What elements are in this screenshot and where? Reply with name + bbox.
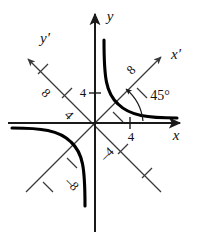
y-prime-tick-label-8: 8 (39, 85, 54, 100)
x-prime-tick-label-8: 8 (123, 62, 138, 77)
x-prime-axis-label: x′ (170, 46, 182, 62)
y-prime-tick-neg4 (118, 144, 128, 154)
y-prime-tick-label-4: 4 (62, 107, 78, 123)
x-prime-tick-4 (113, 112, 123, 122)
primed-axes-group (26, 57, 161, 192)
hyperbola-rotated-axes-figure: x y x′ y′ 45° 4 4 8 –4 8 4 –8 (0, 0, 198, 235)
x-prime-tick-neg8 (43, 182, 53, 192)
x-prime-tick-neg4 (67, 158, 77, 168)
y-prime-tick-8 (38, 64, 48, 74)
y-prime-tick-4 (62, 88, 72, 98)
angle-label-45: 45° (150, 88, 170, 103)
y-axis-tick-label-4: 4 (80, 85, 87, 100)
hyperbola-branch-third-quadrant (12, 128, 85, 206)
y-prime-tick-label-neg8: –8 (62, 173, 83, 194)
y-prime-axis-label: y′ (38, 30, 51, 46)
y-prime-tick-neg8 (142, 168, 152, 178)
x-axis-tick-label-4: 4 (128, 129, 135, 144)
main-axes-group (8, 14, 180, 232)
x-axis-label: x (172, 127, 180, 143)
y-axis-label: y (105, 8, 114, 24)
x-prime-tick-label-neg4: –4 (96, 144, 117, 165)
hyperbola-branch-first-quadrant (104, 40, 177, 118)
x-prime-tick-8 (137, 88, 147, 98)
